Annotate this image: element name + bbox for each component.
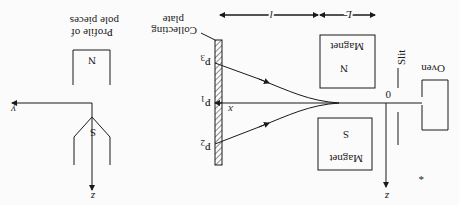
profile-z-label: z bbox=[90, 191, 96, 203]
magnet-n-label: Magnet bbox=[330, 41, 364, 53]
magnet-n-pole: N bbox=[340, 63, 348, 75]
slit-label: Slit bbox=[395, 50, 407, 65]
dim-l-label: l bbox=[270, 9, 273, 21]
oven-label: Oven bbox=[421, 63, 445, 75]
p3-label: P3 bbox=[200, 53, 211, 68]
profile-y-label: y bbox=[11, 104, 17, 116]
profile-caption-2: pole pieces bbox=[70, 15, 119, 27]
diagram-svg: Oven * Slit 0 z x Magnet S N Magnet P2 P… bbox=[0, 0, 459, 205]
plate-label-2: plate bbox=[163, 14, 184, 26]
dim-L-label: L bbox=[346, 9, 353, 21]
magnet-s-pole: S bbox=[343, 129, 349, 141]
z-axis-label: z bbox=[384, 191, 390, 203]
x-axis-label: x bbox=[228, 104, 234, 116]
oven-mark: * bbox=[419, 171, 425, 183]
plate-leader bbox=[201, 33, 215, 40]
p1-label: P1 bbox=[200, 94, 211, 109]
profile-caption-1: Profile of bbox=[71, 27, 113, 39]
profile-n-label: N bbox=[88, 55, 96, 67]
origin-label: 0 bbox=[385, 89, 391, 101]
pole-profile bbox=[12, 50, 110, 190]
magnet-s-label: Magnet bbox=[329, 153, 363, 165]
profile-s-label: S bbox=[90, 127, 96, 139]
collecting-plate bbox=[215, 40, 222, 165]
stern-gerlach-diagram: Oven * Slit 0 z x Magnet S N Magnet P2 P… bbox=[0, 0, 459, 205]
oven bbox=[422, 80, 448, 130]
p2-label: P2 bbox=[200, 138, 211, 153]
